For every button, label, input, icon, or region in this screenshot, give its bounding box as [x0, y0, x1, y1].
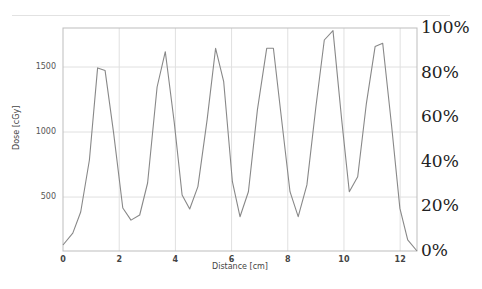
y2-tick-label: 40%	[421, 151, 459, 171]
x-tick-label: 4	[165, 255, 185, 264]
dose-profile-chart: 50010001500 024681012 0%20%40%60%80%100%…	[0, 0, 482, 289]
y2-tick-label: 100%	[421, 17, 470, 37]
y-tick-label: 1000	[16, 127, 56, 136]
x-tick-label: 2	[109, 255, 129, 264]
x-tick-label: 8	[278, 255, 298, 264]
x-axis-label: Distance [cm]	[212, 262, 268, 271]
y2-tick-label: 60%	[421, 106, 459, 126]
dose-curve	[63, 31, 417, 251]
y-tick-label: 1500	[16, 62, 56, 71]
plot-frame	[63, 28, 417, 251]
x-tick-label: 12	[390, 255, 410, 264]
x-tick-label: 0	[53, 255, 73, 264]
y-axis-label: Dose [cGy]	[12, 106, 21, 150]
y-tick-label: 500	[16, 192, 56, 201]
grid-lines	[63, 28, 417, 251]
plot-area	[0, 0, 482, 289]
y2-tick-label: 0%	[421, 240, 448, 260]
y2-tick-label: 20%	[421, 195, 459, 215]
y2-tick-label: 80%	[421, 62, 459, 82]
x-tick-label: 10	[334, 255, 354, 264]
